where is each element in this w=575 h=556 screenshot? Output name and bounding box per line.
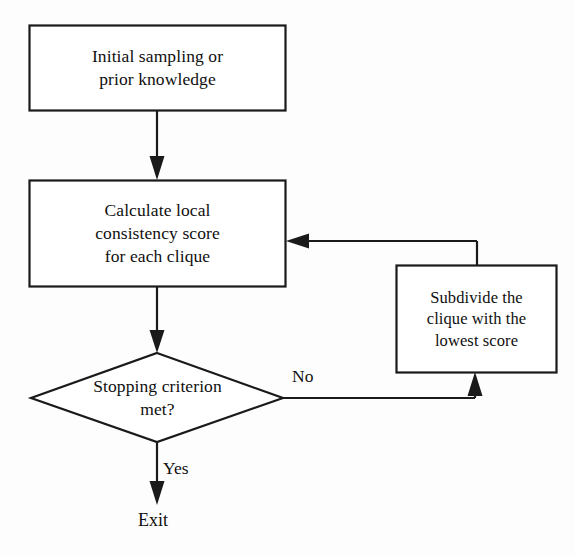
process-box-initial-label: Initial sampling or prior knowledge	[29, 25, 286, 111]
decision-diamond-stopping-line-2: met?	[140, 398, 174, 421]
terminal-label-exit: Exit	[138, 510, 168, 531]
process-box-initial-line-2: prior knowledge	[99, 68, 216, 91]
process-box-subdivide-line-3: lowest score	[435, 330, 518, 351]
process-box-subdivide-line-1: Subdivide the	[430, 287, 523, 308]
decision-diamond-stopping-line-1: Stopping criterion	[93, 375, 222, 398]
arrowhead-stopping-yes	[150, 481, 165, 505]
process-box-calculate-line-1: Calculate local	[105, 199, 211, 222]
process-box-calculate-line-2: consistency score	[95, 222, 220, 245]
process-box-subdivide-line-2: clique with the	[427, 308, 527, 329]
arrowhead-subdivide-to-calculate	[286, 234, 309, 249]
process-box-calculate-label: Calculate local consistency score for ea…	[29, 180, 286, 287]
edge-label-no: No	[292, 366, 313, 387]
edge-label-yes: Yes	[163, 458, 188, 479]
decision-diamond-stopping-label: Stopping criterion met?	[32, 356, 283, 440]
process-box-initial-line-1: Initial sampling or	[92, 45, 223, 68]
flowchart-canvas: Initial sampling or prior knowledge Calc…	[0, 0, 575, 556]
arrowhead-stopping-no	[468, 372, 483, 396]
arrowhead-calculate-to-stopping	[150, 330, 165, 353]
arrowhead-initial-to-calculate	[150, 156, 165, 180]
process-box-calculate-line-3: for each clique	[105, 245, 210, 268]
process-box-subdivide-label: Subdivide the clique with the lowest sco…	[396, 265, 557, 373]
